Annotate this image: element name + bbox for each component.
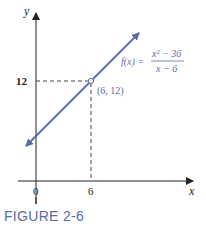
hole-point bbox=[88, 78, 93, 83]
x-axis-label: x bbox=[188, 184, 195, 198]
hole-label: (6, 12) bbox=[97, 85, 124, 97]
function-denominator: x − 6 bbox=[155, 63, 177, 74]
y-axis-label: y bbox=[23, 4, 30, 18]
x-tick-6: 6 bbox=[88, 185, 94, 197]
function-prefix: f(x) = bbox=[121, 56, 144, 68]
chart: y x 0 6 12 (6, 12) f(x) = x² − 36 x − 6 bbox=[0, 0, 206, 235]
figure-caption: FIGURE 2-6 bbox=[4, 208, 84, 224]
function-numerator: x² − 36 bbox=[151, 48, 181, 59]
x-tick-0: 0 bbox=[33, 185, 39, 197]
y-tick-12: 12 bbox=[16, 75, 28, 87]
